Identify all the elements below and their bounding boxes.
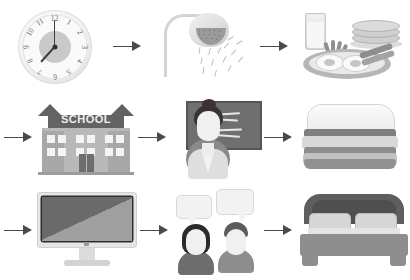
school-sign-text: SCHOOL: [38, 113, 134, 125]
arrow-head: [279, 41, 288, 51]
arrow-r2-c2-to-c3: [260, 91, 298, 184]
person-left: [178, 221, 214, 273]
cell-conversation: [174, 184, 260, 277]
conversation-icon: [174, 187, 260, 275]
monitor-screen: [42, 197, 132, 241]
arrow-head: [23, 132, 32, 142]
arrow-right-icon: [113, 41, 143, 53]
arrow-head: [159, 225, 168, 235]
egg-yolk-left: [324, 59, 335, 66]
arrow-right-icon: [264, 225, 294, 237]
pancakes: [353, 19, 399, 45]
cell-school: SCHOOL: [38, 91, 134, 184]
clock-minute-hand: [54, 20, 56, 47]
shower-icon: [156, 6, 248, 88]
arrow-head: [132, 41, 141, 51]
cell-computer: [38, 184, 136, 277]
teacher-head: [197, 111, 220, 141]
school-ground-line: [38, 172, 134, 175]
arrow-right-icon: [264, 132, 294, 144]
teacher-neck: [202, 143, 214, 155]
cell-alarm-clock: 12 1 2 3 4 5 6 7 8 9 10 11: [0, 0, 109, 93]
sandwich-icon: [298, 103, 404, 173]
school-building-icon: SCHOOL: [38, 98, 134, 178]
monitor-stand-neck: [79, 248, 95, 261]
arrow-r1-c2-to-c3: [256, 0, 294, 93]
flow-row-2: SCHOOL: [0, 91, 403, 184]
person-right: [218, 219, 254, 271]
arrow-r2-c1-to-c2: [134, 91, 172, 184]
arrow-r3-lead-in: [0, 184, 38, 277]
cell-breakfast: [294, 0, 403, 93]
arrow-head: [283, 132, 292, 142]
arrow-r2-lead-in: [0, 91, 38, 184]
bed-leg-left: [302, 252, 318, 266]
person-right-head: [226, 229, 246, 255]
arrow-right-icon: [4, 225, 34, 237]
arrow-r3-c1-to-c2: [136, 184, 174, 277]
arrow-right-icon: [4, 132, 34, 144]
bed-icon: [298, 194, 410, 268]
cell-teacher: [172, 91, 260, 184]
monitor-logo: [84, 242, 89, 246]
cell-sandwich: [298, 91, 404, 184]
breakfast-icon: [297, 7, 401, 87]
teacher-classroom-icon: [172, 97, 260, 179]
arrow-r3-c2-to-c3: [260, 184, 298, 277]
arrow-right-icon: [260, 41, 290, 53]
arrow-head: [23, 225, 32, 235]
monitor-stand-base: [64, 260, 110, 266]
bed-leg-right: [390, 252, 406, 266]
sandwich-top-bread: [308, 105, 394, 131]
milk-fill: [307, 22, 324, 48]
flow-row-3: [0, 184, 403, 277]
arrow-right-icon: [140, 225, 170, 237]
school-door: [79, 154, 94, 173]
sandwich-bottom-bread: [304, 159, 396, 169]
cell-bed: [298, 184, 410, 277]
alarm-clock-icon: 12 1 2 3 4 5 6 7 8 9 10 11: [18, 10, 92, 84]
arrow-r1-c1-to-c2: [109, 0, 147, 93]
computer-monitor-icon: [38, 191, 136, 271]
milk-glass: [305, 13, 326, 50]
cell-shower: [147, 0, 256, 93]
speech-bubble-right: [216, 189, 254, 215]
arrow-head: [283, 225, 292, 235]
arrow-right-icon: [138, 132, 168, 144]
person-left-head: [186, 229, 206, 255]
speech-bubble-left: [176, 195, 212, 219]
teacher-hair-bun: [202, 99, 216, 110]
egg-yolk-right: [350, 60, 361, 67]
clock-center-pin: [52, 44, 57, 49]
arrow-head: [157, 132, 166, 142]
flow-row-1: 12 1 2 3 4 5 6 7 8 9 10 11: [0, 0, 403, 93]
